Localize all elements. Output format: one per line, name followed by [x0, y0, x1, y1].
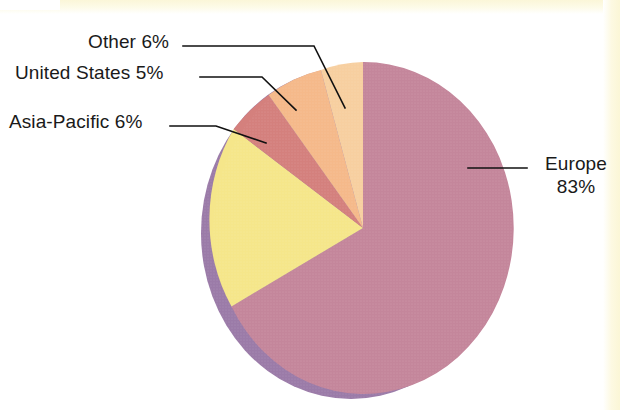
- pie-label-asia-pacific: Asia-Pacific 6%: [9, 111, 143, 133]
- pie-label-united-states: United States 5%: [15, 62, 163, 84]
- pie-chart-figure: Other 6% United States 5% Asia-Pacific 6…: [0, 0, 620, 410]
- pie-label-europe-name: Europe: [536, 152, 616, 175]
- pie-label-europe: Europe 83%: [536, 152, 616, 198]
- pie-label-other: Other 6%: [88, 31, 169, 53]
- pie-label-europe-value: 83%: [536, 175, 616, 198]
